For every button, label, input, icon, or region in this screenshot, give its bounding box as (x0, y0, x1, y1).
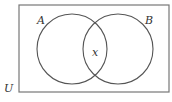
venn-diagram: A B x U (0, 0, 172, 102)
set-a-label: A (36, 14, 45, 27)
intersection-label: x (92, 46, 99, 59)
universe-label: U (4, 82, 14, 95)
set-b-label: B (144, 14, 153, 27)
